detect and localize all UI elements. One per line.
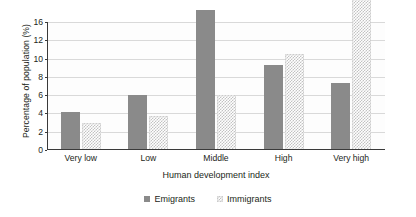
- bar-immigrants-low: [149, 116, 168, 150]
- bar-emigrants-low: [128, 95, 147, 150]
- y-axis-tick-label: 8: [19, 72, 43, 82]
- x-axis-tick-label: Very high: [317, 153, 385, 163]
- bar-immigrants-middle: [217, 95, 236, 150]
- x-axis-tick-label: Middle: [182, 153, 250, 163]
- y-axis-tick-mark: [45, 150, 48, 151]
- bar-group: [115, 22, 183, 150]
- plot-area: 02468101216: [47, 22, 385, 150]
- legend-swatch-icon: [217, 196, 223, 202]
- bar-immigrants-high: [285, 54, 304, 150]
- bar-emigrants-high: [264, 65, 283, 150]
- legend-label: Emigrants: [154, 194, 195, 204]
- y-axis-tick-label: 2: [19, 127, 43, 137]
- chart-legend: EmigrantsImmigrants: [0, 194, 416, 204]
- bar-group: [182, 22, 250, 150]
- x-axis-line: [47, 149, 385, 150]
- bar-emigrants-very-high: [331, 83, 350, 150]
- y-axis-tick-label: 4: [19, 108, 43, 118]
- x-axis-tick-label: Very low: [47, 153, 115, 163]
- bar-immigrants-very-high: [352, 0, 371, 150]
- legend-label: Immigrants: [227, 194, 272, 204]
- bar-immigrants-very-low: [82, 123, 101, 150]
- legend-item-emigrants: Emigrants: [144, 194, 195, 204]
- bar-chart-figure: Percentage of population (%) 02468101216…: [0, 0, 416, 217]
- y-axis-tick-label: 10: [19, 54, 43, 64]
- bar-emigrants-middle: [196, 10, 215, 150]
- x-axis-title: Human development index: [47, 170, 385, 180]
- y-axis-tick-label: 12: [19, 35, 43, 45]
- y-axis-line: [47, 22, 48, 150]
- legend-swatch-icon: [144, 196, 150, 202]
- bar-group: [47, 22, 115, 150]
- bar-groups: [47, 22, 385, 150]
- x-axis-tick-label: Low: [115, 153, 183, 163]
- x-axis-tick-label: High: [250, 153, 318, 163]
- y-axis-tick-label: 16: [19, 17, 43, 27]
- bar-group: [250, 22, 318, 150]
- x-axis-tick-labels: Very lowLowMiddleHighVery high: [47, 153, 385, 163]
- bar-emigrants-very-low: [61, 112, 80, 150]
- bar-group: [317, 22, 385, 150]
- y-axis-tick-label: 0: [19, 145, 43, 155]
- y-axis-tick-label: 6: [19, 90, 43, 100]
- legend-item-immigrants: Immigrants: [217, 194, 272, 204]
